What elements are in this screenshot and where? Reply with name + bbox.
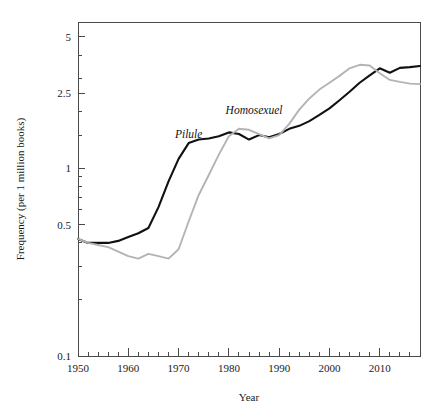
y-tick-label: 0.1	[57, 350, 71, 362]
series-label-homosexuel: Homosexuel	[225, 104, 283, 116]
y-tick-label: 5	[66, 31, 72, 43]
y-tick-label: 2.5	[57, 87, 71, 99]
y-tick-label: 1	[66, 162, 72, 174]
chart-page: 52.510.50.1 1950196019701980199020002010…	[0, 0, 436, 415]
x-tick-label: 1990	[268, 362, 291, 374]
x-tick-label: 1970	[168, 362, 191, 374]
frequency-line-chart: 52.510.50.1 1950196019701980199020002010…	[0, 0, 436, 415]
x-tick-label: 1960	[117, 362, 140, 374]
y-axis-title: Frequency (per 1 million books)	[14, 117, 27, 260]
x-tick-label: 2010	[369, 362, 392, 374]
x-tick-label: 1950	[67, 362, 90, 374]
x-tick-label: 2000	[318, 362, 341, 374]
series-label-pilule: Pilule	[174, 128, 202, 140]
x-axis-title: Year	[239, 391, 260, 403]
y-tick-label: 0.5	[57, 219, 71, 231]
x-tick-label: 1980	[218, 362, 241, 374]
